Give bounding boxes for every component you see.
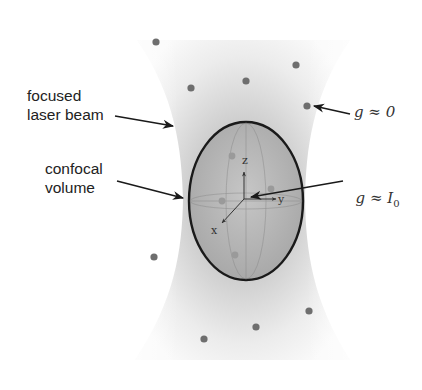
particle-dot bbox=[152, 38, 159, 45]
particle-dot bbox=[268, 186, 275, 193]
z-axis-label: z bbox=[242, 154, 248, 167]
y-axis-label: y bbox=[278, 193, 284, 206]
particle-dot bbox=[200, 335, 207, 342]
g-approx-i0-label: g ≈ I0 bbox=[346, 171, 400, 209]
g-approx-zero-label: g ≈ 0 bbox=[354, 103, 395, 121]
particle-dot bbox=[252, 323, 259, 330]
particle-dot bbox=[303, 102, 310, 109]
confocal-arrow bbox=[117, 181, 183, 198]
particle-dot bbox=[150, 253, 157, 260]
i0-subscript: 0 bbox=[393, 198, 399, 209]
particle-dot bbox=[232, 252, 239, 259]
particle-dot bbox=[229, 153, 236, 160]
particle-dot bbox=[305, 307, 312, 314]
particle-dot bbox=[292, 61, 299, 68]
confocal-volume-label: confocal volume bbox=[45, 159, 103, 197]
g-zero-arrow bbox=[314, 106, 350, 114]
g-approx-i0-text: g ≈ I bbox=[356, 189, 394, 207]
particle-dot bbox=[242, 77, 249, 84]
particle-dot bbox=[219, 198, 226, 205]
x-axis-label: x bbox=[211, 224, 217, 237]
particle-dot bbox=[187, 84, 194, 91]
beam-arrow bbox=[115, 116, 173, 126]
focused-laser-beam-label: focused laser beam bbox=[27, 86, 104, 124]
